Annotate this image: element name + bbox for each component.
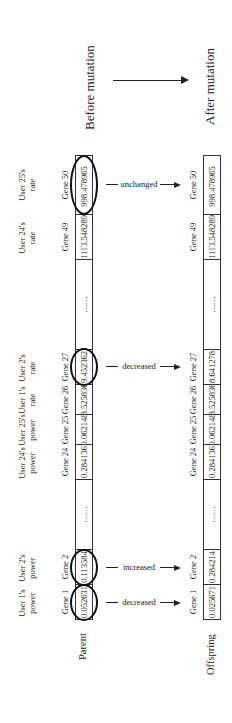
offspring-cell: 998.478965 (204, 159, 220, 214)
header-line2: rate (27, 155, 37, 215)
mutation-arrow-line (106, 366, 118, 367)
before-mutation-label: Before mutation (82, 45, 98, 130)
parent-cell: 1113.548289 (76, 214, 92, 259)
arrow-head-icon (174, 600, 181, 606)
header-gene-49: User 24's rate (17, 208, 37, 268)
header-gene-50: User 25's rate (17, 155, 37, 215)
offspring-gene-label: Gene 49 (188, 212, 198, 262)
legend-arrow-head-icon (181, 77, 189, 85)
parent-cell: 0.062148 (76, 414, 92, 444)
header-line2: power (27, 538, 37, 598)
mutation-highlight-oval (70, 155, 98, 215)
parent-cell: 0.284136 (76, 444, 92, 479)
header-line1: User 24's (17, 208, 27, 268)
mutation-arrow-line (106, 567, 118, 568)
header-line1: User 25's (17, 155, 27, 215)
offspring-cell: 8.525836 (204, 384, 220, 414)
mutation-label-gene27: decreased (122, 361, 156, 371)
arrow-head-icon (174, 565, 181, 571)
legend-arrow-line (113, 80, 181, 81)
header-line1: User 2's (17, 538, 27, 598)
mutation-label-gene1: decreased (122, 597, 156, 607)
offspring-label: Offspring (205, 634, 216, 675)
offspring-cell: 0.025671 (204, 584, 220, 619)
parent-cell: 8.525836 (76, 384, 92, 414)
mutation-label-gene2: increased (123, 562, 155, 572)
offspring-cell: 8.641278 (204, 349, 220, 384)
parent-cell-ellipsis: …… (76, 259, 92, 349)
mutation-arrow-line (160, 602, 174, 603)
mutation-arrow-line (106, 184, 118, 185)
mutation-arrow-line (160, 567, 174, 568)
parent-gene-label: Gene 49 (60, 212, 70, 262)
header-line1: User 2's (17, 338, 27, 398)
parent-label: Parent (77, 633, 88, 660)
parent-cell-ellipsis: …… (76, 479, 92, 549)
mutation-highlight-oval (70, 584, 98, 621)
header-line2: rate (27, 208, 37, 268)
header-line2: rate (27, 338, 37, 398)
arrow-head-icon (174, 364, 181, 370)
offspring-cell-ellipsis: …… (204, 479, 220, 549)
mutation-label-gene50: unchanged (121, 179, 158, 189)
parent-gene-label: Gene 2 (60, 542, 70, 592)
offspring-cell: 1113.548289 (204, 214, 220, 259)
offspring-gene-label: Gene 50 (188, 160, 198, 210)
mutation-arrow-line (160, 184, 174, 185)
arrow-head-icon (174, 182, 181, 188)
mutation-arrow-line (160, 366, 174, 367)
after-mutation-label: After mutation (202, 48, 218, 125)
offspring-cell: 0.284136 (204, 444, 220, 479)
offspring-cell-ellipsis: …… (204, 259, 220, 349)
mutation-arrow-line (106, 602, 118, 603)
mutation-highlight-oval (70, 549, 98, 586)
offspring-gene-label: Gene 27 (188, 342, 198, 392)
offspring-cell: 0.284214 (204, 549, 220, 584)
mutation-highlight-oval (70, 348, 98, 386)
offspring-chromosome: 0.025671 0.284214 …… 0.284136 0.062148 8… (203, 155, 221, 620)
mutation-diagram: Parent Offspring User 1's power User 2's… (0, 0, 232, 723)
header-gene-27: User 2's rate (17, 338, 37, 398)
offspring-cell: 0.062148 (204, 414, 220, 444)
header-gene-2: User 2's power (17, 538, 37, 598)
offspring-gene-label: Gene 2 (188, 542, 198, 592)
parent-gene-label: Gene 27 (60, 342, 70, 392)
parent-gene-label: Gene 50 (60, 160, 70, 210)
